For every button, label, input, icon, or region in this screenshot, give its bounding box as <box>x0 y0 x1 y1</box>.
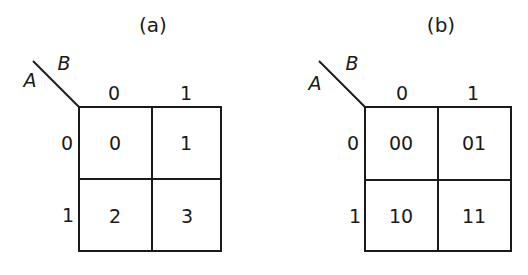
kmap-b-row-var: A <box>307 72 322 94</box>
kmap-a-row-var: A <box>22 69 37 91</box>
kmap-a-diagonal <box>33 61 79 107</box>
kmap-a-row-label-1: 1 <box>62 204 74 226</box>
kmap-a-title: (a) <box>139 13 167 37</box>
kmap-b-cell-00: 00 <box>389 132 413 154</box>
kmap-b-cell-11: 11 <box>462 205 486 227</box>
karnaugh-map-figure: (a) B A 0 1 0 1 0 1 2 3 (b) B A 0 1 0 1 … <box>0 0 528 275</box>
kmap-b-title: (b) <box>427 13 455 37</box>
kmap-a-col-label-0: 0 <box>108 82 120 104</box>
kmap-a-cell-01: 1 <box>180 132 192 154</box>
kmap-b-cell-10: 10 <box>389 205 413 227</box>
kmap-a-col-var: B <box>57 52 70 74</box>
kmap-b-col-var: B <box>345 52 358 74</box>
kmap-b-col-label-0: 0 <box>396 82 408 104</box>
kmap-b-cell-01: 01 <box>462 132 486 154</box>
kmap-a-row-label-0: 0 <box>61 132 73 154</box>
kmap-a-col-label-1: 1 <box>180 82 192 104</box>
kmap-a-cell-00: 0 <box>109 132 121 154</box>
kmap-b: (b) B A 0 1 0 1 00 01 10 11 <box>307 13 512 251</box>
kmap-a: (a) B A 0 1 0 1 0 1 2 3 <box>22 13 222 251</box>
kmap-b-row-label-0: 0 <box>347 132 359 154</box>
kmap-b-col-label-1: 1 <box>467 82 479 104</box>
kmap-a-cell-11: 3 <box>181 205 193 227</box>
kmap-a-cell-10: 2 <box>109 205 121 227</box>
kmap-b-row-label-1: 1 <box>349 205 361 227</box>
